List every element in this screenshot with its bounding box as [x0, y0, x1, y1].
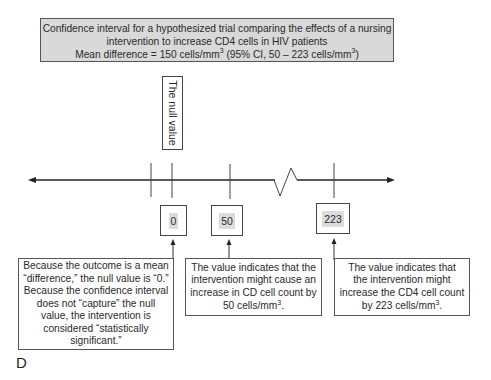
value-label-223: 223	[322, 211, 344, 227]
arrow-up-icon	[171, 239, 176, 245]
note-left: Because the outcome is a mean “differenc…	[18, 258, 174, 350]
arrow-up-icon	[227, 239, 232, 245]
left-arrowhead-icon	[28, 177, 36, 183]
title-box: Confidence interval for a hypothesized t…	[40, 18, 394, 62]
arrow-up-icon	[332, 238, 337, 244]
note-middle: The value indicates that the interventio…	[185, 258, 322, 316]
value-label-0: 0	[169, 213, 179, 229]
value-box-0: 0	[160, 205, 187, 236]
title-line-2: intervention to increase CD4 cells in HI…	[41, 35, 393, 48]
title-line-1: Confidence interval for a hypothesized t…	[41, 22, 393, 35]
value-label-50: 50	[219, 213, 235, 229]
note-right: The value indicates that the interventio…	[334, 258, 470, 316]
null-value-label-box: The null value	[162, 76, 183, 150]
title-line-3: Mean difference = 150 cells/mm3 (95% CI,…	[41, 48, 393, 61]
value-box-50: 50	[211, 205, 243, 236]
panel-letter: D	[16, 354, 27, 371]
right-arrowhead-icon	[387, 177, 395, 183]
value-box-223: 223	[316, 203, 350, 234]
null-value-label: The null value	[167, 80, 179, 145]
